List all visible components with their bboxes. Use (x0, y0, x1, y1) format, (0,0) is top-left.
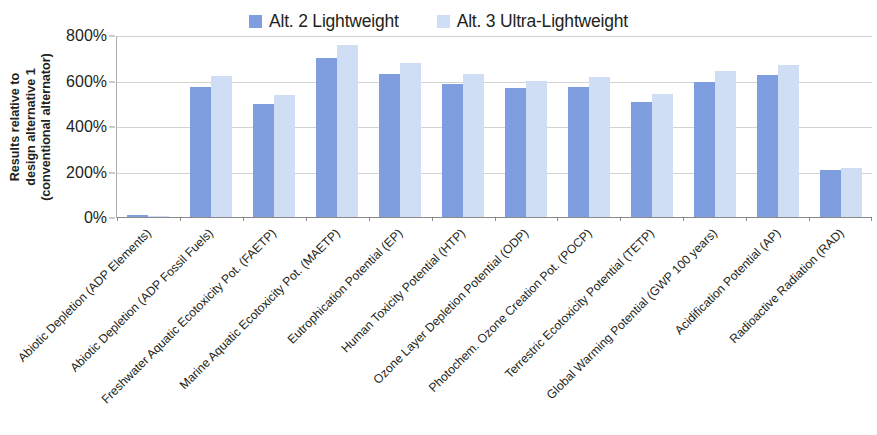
bar-groups (117, 36, 872, 217)
x-axis-tick-mark (620, 217, 621, 221)
bar-series-2 (715, 71, 736, 217)
plot-area (116, 36, 872, 218)
y-axis-ticks: 800%600%400%200%0% (60, 36, 116, 224)
x-axis-tick-mark (495, 217, 496, 221)
x-axis-tick-label: Human Toxicity Potential (HTP) (339, 226, 468, 355)
y-axis-tick-label: 200% (66, 164, 107, 182)
plot-area-container: 800%600%400%200%0% (60, 36, 872, 224)
legend-label-series-2: Alt. 3 Ultra-Lightweight (457, 11, 628, 32)
legend-label-series-1: Alt. 2 Lightweight (269, 11, 399, 32)
bar-series-2 (400, 63, 421, 217)
legend-swatch-series-2 (437, 15, 450, 28)
bar-series-1 (505, 88, 526, 217)
chart-figure: Alt. 2 Lightweight Alt. 3 Ultra-Lightwei… (0, 0, 877, 435)
bar-series-2 (148, 216, 169, 217)
bar-series-1 (694, 82, 715, 217)
bar-series-1 (316, 58, 337, 217)
bar-series-1 (442, 84, 463, 217)
y-axis-title: Results relative to design alternative 1… (8, 36, 55, 218)
bar-series-1 (127, 215, 148, 217)
x-axis-tick-label: Abiotic Depletion (ADP Elements) (15, 226, 154, 365)
x-axis-tick-mark (683, 217, 684, 221)
bar-group (432, 36, 495, 217)
bar-group (746, 36, 809, 217)
bar-series-2 (463, 74, 484, 217)
x-axis-tick-mark (117, 217, 118, 221)
x-axis-tick-mark (180, 217, 181, 221)
bar-series-1 (568, 87, 589, 217)
y-axis-title-line-3: (conventional alternator) (39, 36, 55, 218)
bar-series-2 (337, 45, 358, 217)
bar-group (369, 36, 432, 217)
bar-series-2 (841, 168, 862, 217)
x-axis-labels: Abiotic Depletion (ADP Elements)Abiotic … (116, 222, 872, 432)
legend-entry-series-1: Alt. 2 Lightweight (249, 11, 399, 32)
legend-swatch-series-1 (249, 15, 262, 28)
bar-series-2 (526, 81, 547, 218)
bar-series-1 (757, 75, 778, 217)
x-axis-tick-label: Eutrophication Potential (EP) (285, 226, 406, 347)
bar-series-2 (589, 77, 610, 217)
legend-entry-series-2: Alt. 3 Ultra-Lightweight (437, 11, 628, 32)
y-axis-tick-label: 600% (66, 73, 107, 91)
bar-series-1 (631, 102, 652, 217)
y-axis-title-line-2: design alternative 1 (23, 36, 39, 218)
bar-series-2 (211, 76, 232, 217)
bar-series-1 (190, 87, 211, 217)
x-axis-tick-mark (306, 217, 307, 221)
bar-series-1 (379, 74, 400, 217)
x-axis-tick-mark (369, 217, 370, 221)
y-axis-tick-label: 800% (66, 27, 107, 45)
y-axis-tick-mark (109, 218, 115, 219)
bar-series-1 (253, 104, 274, 217)
y-axis-tick-mark (109, 36, 115, 37)
y-axis-title-line-1: Results relative to (8, 36, 24, 218)
bar-group (243, 36, 306, 217)
y-axis-title-container: Results relative to design alternative 1… (2, 36, 60, 218)
x-axis-tick-mark (432, 217, 433, 221)
y-axis-tick-label: 400% (66, 118, 107, 136)
y-axis-tick-label: 0% (84, 209, 107, 227)
bar-series-2 (778, 65, 799, 217)
bar-group (306, 36, 369, 217)
x-axis-tick-mark (557, 217, 558, 221)
x-axis-tick-mark (243, 217, 244, 221)
x-axis-tick-mark (746, 217, 747, 221)
x-axis-tick-mark (809, 217, 810, 221)
bar-series-2 (274, 95, 295, 217)
bar-group (117, 36, 180, 217)
chart-legend: Alt. 2 Lightweight Alt. 3 Ultra-Lightwei… (0, 8, 877, 34)
bar-group (809, 36, 872, 217)
bar-group (495, 36, 558, 217)
y-axis-tick-mark (109, 127, 115, 128)
x-axis-tick-label: Acidification Potential (AP) (672, 226, 783, 337)
bar-group (683, 36, 746, 217)
x-axis-tick-mark (871, 217, 872, 221)
y-axis-tick-mark (109, 81, 115, 82)
bar-group (180, 36, 243, 217)
y-axis-tick-mark (109, 172, 115, 173)
bar-series-1 (820, 170, 841, 217)
bar-group (557, 36, 620, 217)
x-axis-tick-label: Radioactive Radiation (RAD) (726, 226, 846, 346)
bar-series-2 (652, 94, 673, 217)
bar-group (620, 36, 683, 217)
